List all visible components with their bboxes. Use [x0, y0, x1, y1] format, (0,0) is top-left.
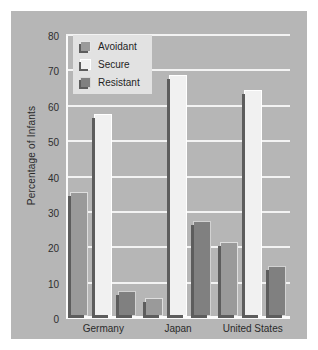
- bar-secure-germany[interactable]: [94, 114, 112, 316]
- bar-avoidant-germany[interactable]: [70, 192, 88, 316]
- y-axis-tick-label: 10: [48, 278, 59, 289]
- legend-swatch-icon: [80, 41, 91, 52]
- y-axis-tick-label: 80: [48, 31, 59, 42]
- legend-item-secure[interactable]: Secure: [80, 59, 140, 70]
- legend-item-label: Resistant: [98, 77, 140, 88]
- chart-legend[interactable]: AvoidantSecureResistant: [73, 35, 152, 94]
- bar-avoidant-japan[interactable]: [145, 298, 163, 316]
- x-axis-labels: GermanyJapanUnited States: [66, 323, 290, 334]
- bar-resistant-germany[interactable]: [118, 291, 136, 316]
- bar-secure-united-states[interactable]: [244, 90, 262, 316]
- bar-group: [215, 33, 290, 316]
- bar-group: [141, 33, 216, 316]
- y-axis-tick-label: 30: [48, 207, 59, 218]
- bar-secure-japan[interactable]: [169, 75, 187, 316]
- legend-item-resistant[interactable]: Resistant: [80, 77, 140, 88]
- y-axis-tick-label: 70: [48, 66, 59, 77]
- bar-resistant-japan[interactable]: [193, 221, 211, 317]
- legend-item-label: Secure: [98, 59, 130, 70]
- legend-item-avoidant[interactable]: Avoidant: [80, 41, 140, 52]
- bar-resistant-united-states[interactable]: [268, 266, 286, 316]
- y-axis-tick-label: 40: [48, 172, 59, 183]
- x-axis-label: Japan: [141, 323, 216, 334]
- legend-swatch-icon: [80, 59, 91, 70]
- bar-avoidant-united-states[interactable]: [220, 242, 238, 316]
- y-axis-title: Percentage of Infants: [26, 66, 37, 246]
- legend-item-label: Avoidant: [98, 41, 137, 52]
- x-axis-label: Germany: [66, 323, 141, 334]
- x-axis-label: United States: [215, 323, 290, 334]
- y-axis-tick-label: 20: [48, 243, 59, 254]
- y-axis-tick-label: 60: [48, 101, 59, 112]
- chart-figure: Percentage of Infants 01020304050607080 …: [11, 11, 307, 339]
- y-axis-tick-label: 50: [48, 137, 59, 148]
- legend-swatch-icon: [80, 77, 91, 88]
- y-axis-tick-label: 0: [53, 314, 59, 325]
